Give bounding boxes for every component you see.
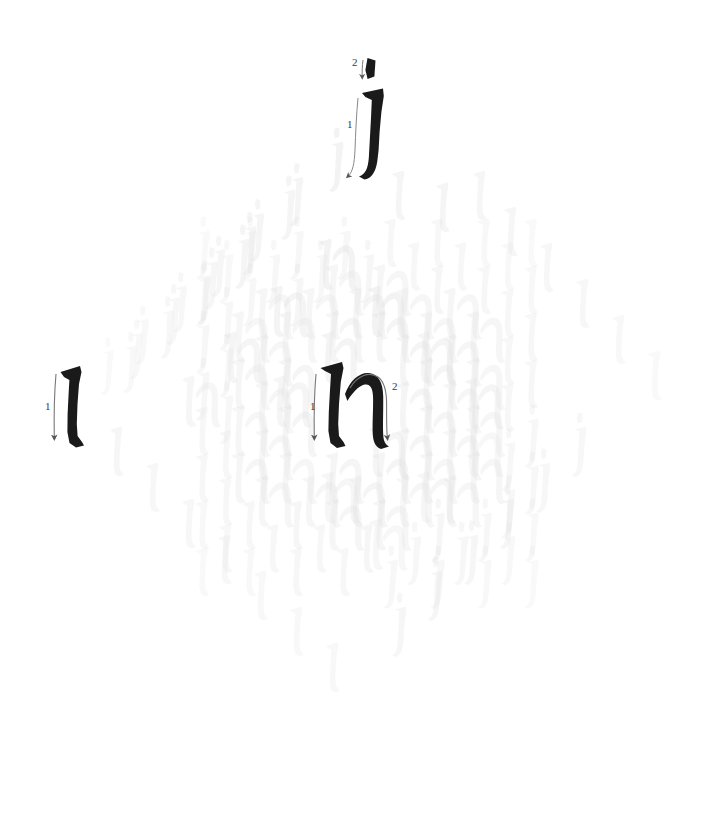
letter-h-stroke-number-2: 2 <box>392 380 398 392</box>
letter-j-stroke-number-2: 2 <box>352 56 358 68</box>
practice-sheet-canvas: 1 1 2 2 1 <box>0 0 715 813</box>
letter-j-arrow-1 <box>348 98 358 176</box>
letter-h-stroke-number-1: 1 <box>310 400 316 412</box>
exemplar-letter-l[interactable]: 1 <box>45 366 84 448</box>
letter-j-arrow-2 <box>362 60 363 77</box>
letter-l-stroke-number-1: 1 <box>45 400 51 412</box>
exemplar-letter-j[interactable]: 2 1 <box>347 56 384 180</box>
letter-j-stroke-1 <box>359 89 384 180</box>
exemplar-letter-h[interactable]: 1 2 <box>310 362 398 449</box>
exemplar-letters-layer: 1 1 2 2 1 <box>0 0 715 813</box>
letter-j-dot-stroke-2 <box>365 58 375 79</box>
letter-l-stroke-1 <box>61 366 85 448</box>
letter-h-stroke-2 <box>345 373 389 449</box>
letter-h-stroke-1 <box>321 362 346 448</box>
letter-l-arrow-1 <box>54 374 56 438</box>
letter-j-stroke-number-1: 1 <box>347 118 353 130</box>
